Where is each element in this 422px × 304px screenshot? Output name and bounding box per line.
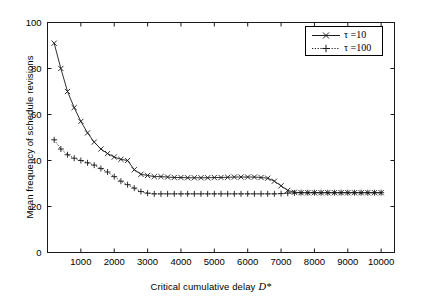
y-tick-label: 80	[0, 63, 42, 74]
y-tick-label: 0	[0, 247, 42, 258]
axis-ticks	[48, 23, 395, 253]
plot-frame	[48, 23, 395, 253]
legend-item-tau-100: τ =100	[306, 42, 382, 55]
y-tick-label: 60	[0, 109, 42, 120]
y-tick-label: 40	[0, 155, 42, 166]
series-1	[52, 41, 384, 196]
legend-sample-dotted-plus	[311, 42, 341, 55]
x-tick-label: 10000	[351, 256, 411, 267]
legend-label-tau-100: τ =100	[344, 42, 371, 53]
legend-sample-solid-x	[311, 29, 341, 42]
data-series-group	[51, 41, 384, 197]
series-2	[51, 137, 384, 197]
y-tick-label: 100	[0, 17, 42, 28]
legend-label-tau-10: τ =10	[344, 29, 366, 40]
y-axis-label: Mean frequency of schedule revisions	[24, 22, 35, 252]
x-axis-label-symbol: D*	[255, 281, 271, 292]
legend-item-tau-10: τ =10	[306, 29, 382, 42]
y-axis-label-container: Mean frequency of schedule revisions	[24, 22, 38, 252]
y-tick-label: 20	[0, 201, 42, 212]
x-axis-label-text: Critical cumulative delay	[151, 281, 256, 292]
x-axis-label: Critical cumulative delayD*	[0, 281, 422, 292]
chart-figure: Mean frequency of schedule revisions Cri…	[0, 0, 422, 304]
chart-legend: τ =10 τ =100	[305, 26, 383, 56]
